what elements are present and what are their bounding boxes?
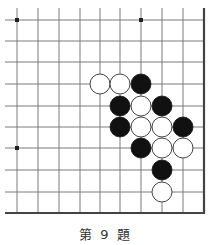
- white-stone: [152, 138, 172, 158]
- go-board: [0, 0, 211, 222]
- black-stone: [131, 74, 151, 94]
- white-stone: [152, 182, 172, 202]
- white-stone: [173, 138, 193, 158]
- board-grid: [5, 8, 205, 214]
- problem-caption: 第 9 題: [0, 224, 211, 243]
- black-stone: [152, 160, 172, 180]
- white-stone: [152, 117, 172, 137]
- white-stone: [131, 96, 151, 116]
- white-stone: [131, 117, 151, 137]
- black-stone: [131, 138, 151, 158]
- black-stone: [110, 96, 130, 116]
- white-stone: [110, 74, 130, 94]
- star-point: [15, 18, 19, 22]
- black-stone: [110, 117, 130, 137]
- star-point: [15, 146, 19, 150]
- star-point: [139, 18, 143, 22]
- white-stone: [90, 74, 110, 94]
- black-stone: [173, 117, 193, 137]
- black-stone: [152, 96, 172, 116]
